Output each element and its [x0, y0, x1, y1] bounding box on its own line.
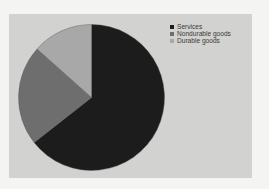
legend-item-durable-goods: Durable goods — [170, 37, 231, 44]
legend-label: Nondurable goods — [177, 30, 231, 37]
legend-label: Services — [177, 23, 202, 30]
legend-swatch-icon — [170, 25, 174, 29]
legend-label: Durable goods — [177, 37, 220, 44]
legend: Services Nondurable goods Durable goods — [170, 23, 231, 44]
legend-swatch-icon — [170, 39, 174, 43]
legend-swatch-icon — [170, 32, 174, 36]
legend-item-services: Services — [170, 23, 231, 30]
legend-item-nondurable-goods: Nondurable goods — [170, 30, 231, 37]
